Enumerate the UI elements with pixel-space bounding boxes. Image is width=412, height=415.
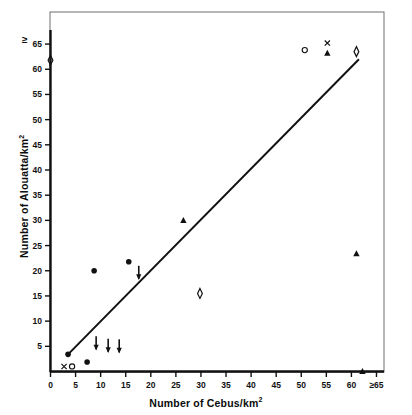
x-tick-label: 0 [48, 380, 53, 390]
x-axis-ticks: 051015202530354045505560≥65 [48, 372, 384, 391]
y-tick-label: 10 [33, 316, 43, 326]
y-axis-ticks: 5101520253035404550556065 [33, 39, 51, 351]
y-tick-label: 35 [33, 190, 43, 200]
plot-area: 051015202530354045505560≥65 510152025303… [0, 0, 412, 415]
data-point-filled-triangle [180, 217, 186, 223]
data-point-open-circle [302, 48, 307, 53]
open-diamond-marker [354, 47, 359, 57]
data-point-filled-circle [84, 359, 90, 365]
y-tick-label: 60 [33, 64, 43, 74]
data-point-down-arrow [136, 266, 141, 280]
open-circle-marker [69, 364, 74, 369]
data-point-cross-x [61, 364, 66, 369]
x-tick-label: 15 [121, 380, 131, 390]
data-point-open-circle [69, 364, 74, 369]
y-axis-title-text: Number of Alouatta/km [18, 139, 30, 258]
y-tick-label: 20 [33, 266, 43, 276]
x-tick-label: 35 [221, 380, 231, 390]
data-point-cross-x [325, 40, 330, 45]
x-tick-label: 30 [196, 380, 206, 390]
y-tick-label: 15 [33, 291, 43, 301]
filled-triangle-marker [324, 50, 330, 56]
data-point-open-diamond [354, 47, 359, 57]
filled-circle-marker [65, 352, 71, 358]
down-arrow-head [94, 345, 99, 351]
data-point-down-arrow [106, 339, 111, 353]
data-point-down-arrow [94, 336, 99, 350]
regression-line-group [68, 59, 359, 354]
data-point-open-diamond [198, 288, 203, 298]
y-tick-label: 30 [33, 215, 43, 225]
x-tick-label: 40 [246, 380, 256, 390]
down-arrow-head [136, 274, 141, 280]
x-tick-label: 5 [73, 380, 78, 390]
scatter-chart-figure: 051015202530354045505560≥65 510152025303… [0, 0, 412, 415]
x-axis-title-superscript: 2 [259, 396, 263, 403]
y-tick-label: 25 [33, 241, 43, 251]
data-point-filled-circle [91, 268, 97, 274]
y-axis-title-superscript: 2 [18, 135, 25, 139]
x-axis-title-text: Number of Cebus/km [149, 397, 258, 409]
data-point-filled-triangle [353, 250, 359, 256]
x-tick-label: 60 [347, 380, 357, 390]
y-tick-label: 40 [33, 165, 43, 175]
filled-triangle-marker [353, 250, 359, 256]
y-axis-greater-equal-annotation: ≥ [22, 34, 28, 45]
down-arrow-head [117, 348, 122, 354]
y-tick-label: 65 [33, 39, 43, 49]
data-point-down-arrow [117, 339, 122, 353]
plot-frame [50, 12, 384, 372]
x-tick-label: 45 [271, 380, 281, 390]
data-markers-group [48, 40, 366, 374]
open-circle-marker [302, 48, 307, 53]
data-point-filled-triangle [324, 50, 330, 56]
x-tick-label: 20 [146, 380, 156, 390]
x-axis-title: Number of Cebus/km2 [0, 396, 412, 409]
x-tick-label: 25 [171, 380, 181, 390]
open-diamond-marker [198, 288, 203, 298]
regression-trend-line [68, 59, 359, 354]
data-point-filled-circle [126, 259, 132, 265]
y-tick-label: 55 [33, 89, 43, 99]
filled-circle-marker [91, 268, 97, 274]
x-tick-label: 10 [96, 380, 106, 390]
y-tick-label: 50 [33, 115, 43, 125]
y-tick-label: 5 [37, 341, 42, 351]
cross-x-marker [325, 40, 330, 45]
down-arrow-head [106, 347, 111, 353]
filled-triangle-marker [180, 217, 186, 223]
y-tick-label: 45 [33, 140, 43, 150]
filled-circle-marker [84, 359, 90, 365]
cross-x-marker [61, 364, 66, 369]
data-point-filled-circle [65, 352, 71, 358]
y-axis-title: Number of Alouatta/km2 [18, 86, 31, 306]
filled-circle-marker [126, 259, 132, 265]
x-tick-label: 50 [297, 380, 307, 390]
x-tick-label: 55 [322, 380, 332, 390]
x-tick-label: ≥65 [369, 380, 383, 390]
